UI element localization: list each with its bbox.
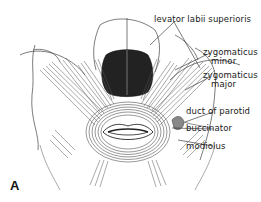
label-zygomaticus-minor-line2: minor <box>211 57 236 66</box>
panel-letter: A <box>10 178 19 193</box>
label-buccinator: buccinator <box>186 124 232 133</box>
label-modiolus: modiolus <box>186 142 225 151</box>
lips <box>103 124 153 139</box>
anatomy-illustration <box>0 0 261 202</box>
label-duct-of-parotid: duct of parotid <box>186 107 250 116</box>
facial-muscles-diagram: levator labii superioris zygomaticus min… <box>0 0 261 202</box>
label-zygomaticus-major-line2: major <box>211 80 236 89</box>
label-levator-labii-superioris: levator labii superioris <box>154 15 251 24</box>
